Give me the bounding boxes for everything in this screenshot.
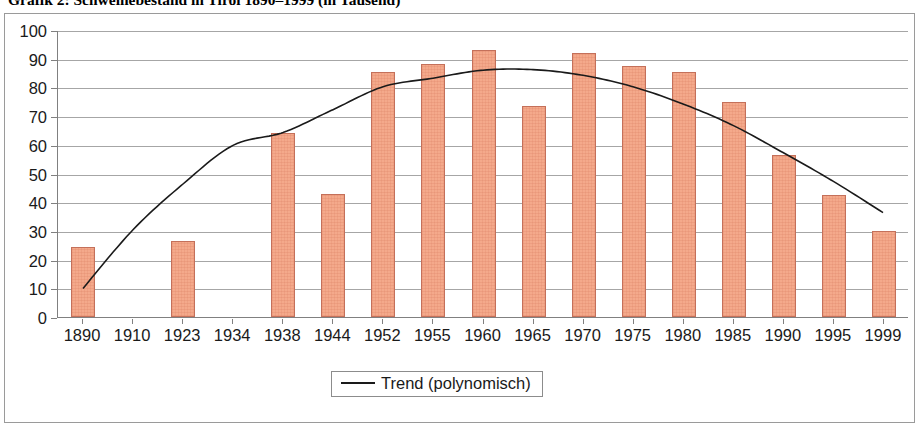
bar (872, 231, 896, 317)
x-tick-label: 1890 (64, 326, 101, 345)
y-tick-label: 40 (29, 194, 47, 213)
x-tick-mark (683, 319, 684, 324)
x-tick-label: 1990 (764, 326, 801, 345)
y-tick-label: 10 (29, 280, 47, 299)
x-tick-label: 1934 (214, 326, 251, 345)
x-axis: 1890191019231934193819441952195519601965… (57, 319, 908, 349)
legend-line-icon (341, 382, 375, 384)
y-tick-label: 20 (29, 251, 47, 270)
x-tick-mark (883, 319, 884, 324)
x-tick-mark (633, 319, 634, 324)
y-tick-label: 80 (29, 79, 47, 98)
bar (371, 72, 395, 317)
y-tick-label: 30 (29, 222, 47, 241)
chart-legend: Trend (polynomisch) (331, 371, 543, 397)
x-tick-mark (833, 319, 834, 324)
x-tick-mark (182, 319, 183, 324)
bar (622, 66, 646, 317)
x-tick-mark (82, 319, 83, 324)
y-tick-label: 70 (29, 108, 47, 127)
y-tick-label: 50 (29, 165, 47, 184)
plot-area (57, 31, 908, 318)
x-tick-label: 1995 (815, 326, 852, 345)
x-tick-label: 1999 (865, 326, 902, 345)
x-tick-mark (382, 319, 383, 324)
y-tick-label: 100 (19, 22, 47, 41)
x-tick-label: 1965 (514, 326, 551, 345)
x-tick-label: 1952 (364, 326, 401, 345)
x-tick-label: 1910 (114, 326, 151, 345)
x-tick-label: 1975 (614, 326, 651, 345)
x-tick-mark (432, 319, 433, 324)
chart-title: Grafik 2: Schweinebestand in Tirol 1890–… (8, 0, 400, 9)
bar (572, 53, 596, 317)
y-axis: 0102030405060708090100 (4, 31, 57, 318)
bar (722, 102, 746, 317)
x-tick-mark (483, 319, 484, 324)
bar (472, 50, 496, 317)
y-tick-label: 60 (29, 136, 47, 155)
x-tick-label: 1980 (664, 326, 701, 345)
x-tick-mark (733, 319, 734, 324)
bar (822, 195, 846, 317)
bar (522, 106, 546, 317)
chart-figure: Grafik 2: Schweinebestand in Tirol 1890–… (0, 0, 923, 433)
bar (171, 241, 195, 317)
legend-label-trend: Trend (polynomisch) (381, 375, 531, 392)
x-tick-label: 1923 (164, 326, 201, 345)
bar (271, 133, 295, 317)
x-tick-label: 1970 (564, 326, 601, 345)
bar (672, 72, 696, 317)
x-tick-mark (332, 319, 333, 324)
bar-series (58, 31, 908, 317)
x-tick-mark (132, 319, 133, 324)
x-tick-mark (783, 319, 784, 324)
x-tick-mark (232, 319, 233, 324)
x-tick-mark (282, 319, 283, 324)
x-tick-mark (533, 319, 534, 324)
x-tick-label: 1938 (264, 326, 301, 345)
y-tick-label: 0 (38, 309, 47, 328)
x-tick-label: 1955 (414, 326, 451, 345)
x-tick-label: 1960 (464, 326, 501, 345)
bar (772, 155, 796, 317)
x-tick-mark (583, 319, 584, 324)
y-tick-label: 90 (29, 50, 47, 69)
bar (321, 194, 345, 317)
x-tick-label: 1944 (314, 326, 351, 345)
bar (71, 247, 95, 317)
x-tick-label: 1985 (714, 326, 751, 345)
bar (421, 64, 445, 317)
